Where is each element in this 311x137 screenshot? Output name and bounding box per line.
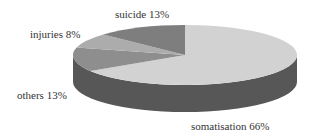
pie-slices bbox=[73, 25, 297, 85]
label-others: others 13% bbox=[17, 89, 67, 101]
pie-chart bbox=[0, 0, 311, 137]
label-injuries: injuries 8% bbox=[30, 28, 80, 40]
label-suicide: suicide 13% bbox=[115, 8, 169, 20]
label-somatisation: somatisation 66% bbox=[191, 120, 270, 132]
